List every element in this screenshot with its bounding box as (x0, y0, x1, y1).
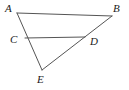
segment-AB (17, 13, 112, 16)
vertex-label-a: A (5, 3, 12, 14)
vertex-label-b: B (113, 3, 120, 14)
segment-BE (42, 16, 112, 70)
geometry-figure: A B C D E (0, 0, 129, 90)
segment-AE (17, 13, 42, 70)
segment-CD (25, 37, 85, 38)
vertex-label-c: C (10, 34, 17, 45)
geometry-canvas (0, 0, 129, 90)
vertex-label-e: E (37, 74, 44, 85)
vertex-label-d: D (90, 36, 98, 47)
